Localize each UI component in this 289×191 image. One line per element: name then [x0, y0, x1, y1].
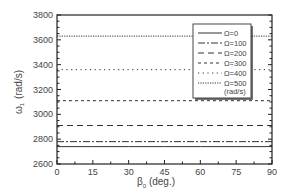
y-tick-label: 3800	[33, 10, 53, 20]
x-tick-label: 15	[88, 167, 98, 177]
chart: 2600280030003200340036003800 01530456075…	[0, 0, 289, 191]
y-tick-label: 3400	[33, 60, 53, 70]
legend-label: Ω=0	[224, 29, 238, 38]
y-tick-label: 2600	[33, 159, 53, 169]
x-tick-label: 30	[124, 167, 134, 177]
y-axis-title-unit: (rad/s)	[13, 70, 24, 99]
legend: Ω=0Ω=100Ω=200Ω=300Ω=400Ω=500 (rad/s)	[193, 24, 253, 100]
legend-label: Ω=400	[224, 69, 247, 78]
legend-label: Ω=200	[224, 49, 247, 58]
y-axis-title-sub: 1	[19, 102, 25, 106]
y-tick-label: 3200	[33, 85, 53, 95]
x-tick-label: 60	[195, 167, 205, 177]
x-axis-ticks: 0153045607590	[54, 160, 277, 177]
y-axis-title: ω1(rad/s)	[13, 70, 25, 114]
legend-unit-note: (rad/s)	[224, 87, 246, 96]
x-tick-label: 0	[54, 167, 59, 177]
y-tick-label: 3600	[33, 35, 53, 45]
y-tick-label: 3000	[33, 109, 53, 119]
legend-label: Ω=100	[224, 39, 247, 48]
legend-label: Ω=300	[224, 59, 247, 68]
y-axis-title-main: ω	[13, 106, 24, 114]
x-axis-title-unit: (deg.)	[146, 176, 175, 187]
x-axis-title: β0 (deg.)	[137, 176, 175, 189]
x-tick-label: 90	[267, 167, 277, 177]
y-tick-label: 2800	[33, 134, 53, 144]
svg-text:ω1(rad/s): ω1(rad/s)	[13, 70, 25, 114]
x-tick-label: 75	[231, 167, 241, 177]
